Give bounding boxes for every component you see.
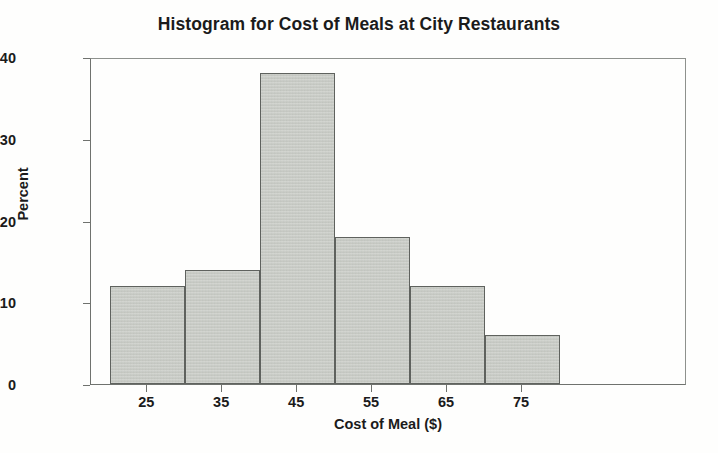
x-tick-label: 75	[499, 394, 543, 410]
x-tick-mark	[221, 385, 222, 392]
y-tick-mark	[83, 58, 90, 59]
y-tick-mark	[83, 303, 90, 304]
histogram-bar	[410, 286, 485, 384]
histogram-bar	[260, 73, 335, 384]
histogram-chart: Histogram for Cost of Meals at City Rest…	[0, 0, 718, 453]
histogram-bar	[485, 335, 560, 384]
y-tick-mark	[83, 385, 90, 386]
histogram-bar	[185, 270, 260, 384]
x-tick-mark	[521, 385, 522, 392]
y-tick-label: 0	[0, 377, 16, 393]
x-tick-mark	[446, 385, 447, 392]
histogram-bar	[110, 286, 185, 384]
x-tick-label: 55	[349, 394, 393, 410]
x-tick-mark	[371, 385, 372, 392]
y-tick-label: 30	[0, 132, 16, 148]
plot-area	[90, 58, 686, 385]
x-tick-mark	[146, 385, 147, 392]
x-tick-label: 35	[199, 394, 243, 410]
x-tick-label: 45	[274, 394, 318, 410]
chart-title: Histogram for Cost of Meals at City Rest…	[0, 14, 718, 35]
y-tick-mark	[83, 140, 90, 141]
x-axis-label: Cost of Meal ($)	[90, 416, 686, 432]
y-tick-label: 10	[0, 295, 16, 311]
y-tick-label: 20	[0, 214, 16, 230]
histogram-bar	[335, 237, 410, 384]
x-tick-label: 25	[124, 394, 168, 410]
y-tick-label: 40	[0, 50, 16, 66]
y-tick-mark	[83, 222, 90, 223]
x-tick-mark	[296, 385, 297, 392]
y-axis-label: Percent	[15, 167, 31, 220]
x-tick-label: 65	[424, 394, 468, 410]
